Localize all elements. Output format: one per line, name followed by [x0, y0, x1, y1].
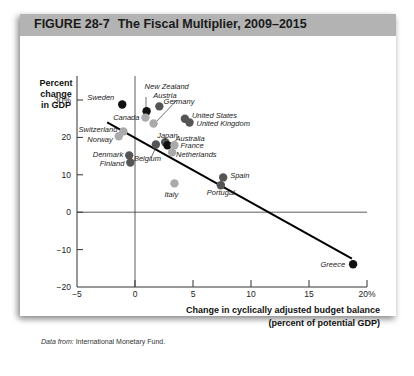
y-axis-label: change: [40, 89, 72, 99]
data-point: [168, 148, 176, 156]
data-point: [118, 100, 126, 108]
data-point: [185, 118, 193, 126]
point-label: Norway: [87, 135, 114, 144]
scatter-chart: 30%20100−10−20−505101520%Percentchangein…: [0, 0, 414, 376]
y-axis-label: in GDP: [41, 100, 71, 110]
y-tick-label: −20: [57, 282, 72, 292]
data-point: [219, 173, 227, 181]
point-label: United Kingdom: [197, 119, 250, 128]
data-point: [149, 119, 157, 127]
point-label: Japan: [156, 131, 177, 140]
data-point: [152, 140, 160, 148]
point-label: New Zealand: [145, 82, 190, 91]
point-label: Sweden: [87, 93, 114, 102]
point-label: Switzerland: [79, 125, 119, 134]
x-tick-label: 5: [191, 289, 196, 299]
point-label: Germany: [164, 97, 196, 106]
source-label: Data from:: [41, 338, 74, 345]
data-point: [155, 102, 163, 110]
x-axis-label: (percent of potential GDP): [268, 318, 380, 328]
point-label: Finland: [100, 159, 125, 168]
data-source-note: Data from: International Monetary Fund.: [41, 338, 165, 345]
point-label: Greece: [320, 260, 345, 269]
data-point: [141, 113, 149, 121]
data-point: [349, 260, 357, 268]
y-tick-label: 20: [62, 132, 72, 142]
x-axis-label: Change in cyclically adjusted budget bal…: [186, 305, 380, 315]
y-tick-label: −10: [57, 245, 72, 255]
x-tick-label: 10: [246, 289, 256, 299]
x-tick-label: −5: [72, 289, 82, 299]
y-tick-label: 10: [62, 170, 72, 180]
point-label: Portugal: [207, 188, 235, 197]
y-tick-label: 0: [66, 207, 71, 217]
y-axis-label: Percent: [39, 78, 72, 88]
point-label: Denmark: [93, 150, 125, 159]
x-tick-label: 0: [133, 289, 138, 299]
data-point: [170, 141, 178, 149]
source-text: International Monetary Fund.: [74, 338, 165, 345]
x-tick-label: 20%: [358, 289, 375, 299]
point-label: Canada: [113, 113, 139, 122]
data-point: [126, 158, 134, 166]
x-tick-label: 15: [304, 289, 314, 299]
point-label: Belgium: [134, 154, 161, 163]
point-label: United States: [192, 111, 237, 120]
point-label: Italy: [164, 190, 179, 199]
point-label: Netherlands: [176, 150, 217, 159]
data-point: [170, 179, 178, 187]
point-label: Spain: [230, 171, 249, 180]
point-label: France: [180, 141, 203, 150]
data-point: [125, 151, 133, 159]
data-point: [115, 132, 123, 140]
